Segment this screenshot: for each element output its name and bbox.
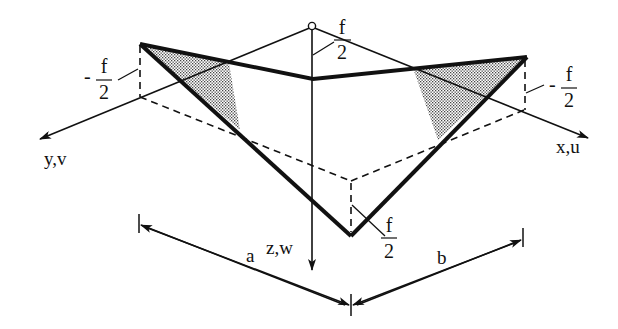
leader-right xyxy=(526,85,544,93)
dimension-lines xyxy=(139,214,523,316)
fraction-bottom-den: 2 xyxy=(384,240,394,262)
dim-line-b-tobottom xyxy=(353,242,517,305)
plate-deflection-diagram: y,v x,u z,w a b f 2 - f 2 - f 2 f 2 xyxy=(0,0,618,329)
fraction-top-den: 2 xyxy=(337,41,347,63)
y-axis xyxy=(40,27,312,139)
fraction-bottom: f 2 xyxy=(381,214,397,262)
z-axis-label: z,w xyxy=(266,237,293,258)
dimension-b-label: b xyxy=(437,247,447,268)
x-axis-label: x,u xyxy=(556,136,580,157)
fraction-top: f 2 xyxy=(334,16,351,63)
fraction-left-num: f xyxy=(101,55,108,77)
leader-left xyxy=(118,69,138,80)
leader-top xyxy=(313,42,334,55)
fraction-right-num: f xyxy=(566,63,573,85)
dimension-a-label: a xyxy=(246,245,255,266)
fraction-top-num: f xyxy=(339,16,346,38)
fraction-right-den: 2 xyxy=(564,89,574,111)
fraction-left-den: 2 xyxy=(99,81,109,103)
origin-node xyxy=(308,22,315,29)
fraction-right: - f 2 xyxy=(549,63,577,111)
dim-line-a-tobottom xyxy=(145,227,349,305)
fraction-bottom-num: f xyxy=(386,214,393,236)
shaded-regions xyxy=(140,44,527,140)
fraction-right-sign: - xyxy=(549,73,556,95)
fraction-left: - f 2 xyxy=(84,55,112,103)
right-shaded-region xyxy=(413,57,527,140)
fraction-left-sign: - xyxy=(84,65,91,87)
left-bottom-edge xyxy=(140,44,351,236)
y-axis-label: y,v xyxy=(44,148,67,169)
